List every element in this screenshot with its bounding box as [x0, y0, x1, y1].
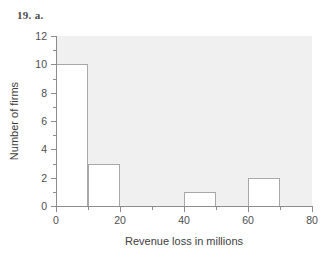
- x-axis-major-tick: [56, 207, 57, 212]
- histogram-chart: 024681012 020406080 Revenue loss in mill…: [0, 0, 330, 260]
- x-axis-major-tick: [312, 207, 313, 212]
- y-axis-tick-label: 12: [35, 30, 47, 42]
- x-axis-title: Revenue loss in millions: [56, 235, 312, 247]
- x-axis-tick-label: 60: [242, 214, 254, 226]
- y-axis-minor-tick: [53, 107, 56, 108]
- y-axis-minor-tick: [53, 192, 56, 193]
- y-axis-minor-tick: [53, 79, 56, 80]
- y-axis-title: Number of firms: [8, 82, 20, 160]
- x-axis-tick-label: 0: [53, 214, 59, 226]
- x-axis-minor-tick: [88, 207, 89, 210]
- bar-series: [56, 36, 312, 206]
- histogram-bar: [88, 164, 120, 207]
- y-axis-tick-label: 6: [41, 115, 47, 127]
- y-axis-tick-label: 8: [41, 87, 47, 99]
- y-axis-major-tick: [51, 178, 56, 179]
- y-axis-major-tick: [51, 149, 56, 150]
- y-axis-major-tick: [51, 93, 56, 94]
- y-axis-major-tick: [51, 36, 56, 37]
- x-axis-major-tick: [184, 207, 185, 212]
- x-axis-minor-tick: [280, 207, 281, 210]
- histogram-bar: [248, 178, 280, 206]
- y-axis-major-tick: [51, 64, 56, 65]
- y-axis-tick-label: 10: [35, 58, 47, 70]
- x-axis-major-tick: [120, 207, 121, 212]
- y-axis-minor-tick: [53, 135, 56, 136]
- histogram-bar: [184, 192, 216, 206]
- x-axis-tick-label: 20: [114, 214, 126, 226]
- x-axis-major-tick: [248, 207, 249, 212]
- x-axis-ticks: 020406080: [0, 207, 330, 217]
- histogram-bar: [56, 64, 88, 206]
- y-axis-tick-label: 2: [41, 172, 47, 184]
- y-axis-line: [56, 36, 57, 207]
- y-axis-major-tick: [51, 121, 56, 122]
- y-axis-minor-tick: [53, 164, 56, 165]
- x-axis-tick-label: 80: [306, 214, 318, 226]
- y-axis-minor-tick: [53, 50, 56, 51]
- y-axis-tick-label: 4: [41, 143, 47, 155]
- x-axis-tick-label: 40: [178, 214, 190, 226]
- x-axis-minor-tick: [216, 207, 217, 210]
- x-axis-minor-tick: [152, 207, 153, 210]
